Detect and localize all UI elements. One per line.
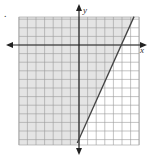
x-axis-label: x xyxy=(139,45,144,55)
y-axis-label: y xyxy=(82,5,87,15)
shaded-region xyxy=(10,8,138,153)
coordinate-plane: x y xyxy=(0,0,147,158)
